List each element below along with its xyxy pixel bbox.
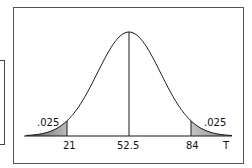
tick-label-84: 84 [186,141,199,151]
tick-label-21: 21 [63,141,76,151]
x-axis-label: T [223,141,229,151]
left-tail-probability-label: .025 [37,118,59,128]
right-tail-probability-label: .025 [204,118,226,128]
tick-label-mean: 52.5 [117,141,139,151]
